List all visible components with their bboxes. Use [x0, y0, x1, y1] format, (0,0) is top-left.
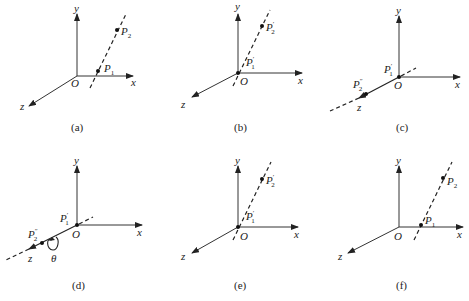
p1-prime-label: P′1	[245, 209, 255, 225]
origin-label: O	[240, 75, 248, 87]
z-axis	[192, 73, 238, 97]
p1-prime-label: P′1	[383, 62, 393, 78]
caption-a: (a)	[71, 121, 84, 134]
p2-double-prime-label: P″2	[352, 77, 363, 93]
panel-b: y x z O P′1 P′2 (b)	[180, 0, 303, 134]
point-p1-prime	[236, 225, 240, 229]
point-p2-prime	[260, 24, 264, 28]
panel-a: y x z O P1 P2 (a)	[19, 2, 136, 134]
rotation-axis-line-lower	[330, 98, 359, 111]
z-axis	[29, 76, 77, 106]
theta-label: θ	[51, 252, 57, 264]
p1-label: P1	[103, 62, 115, 77]
point-p2-prime	[260, 177, 264, 181]
origin-label: O	[394, 230, 402, 242]
caption-e: (e)	[234, 279, 247, 292]
z-label: z	[180, 98, 186, 110]
caption-d: (d)	[72, 279, 85, 292]
z-label: z	[356, 101, 362, 113]
origin-label: O	[240, 230, 248, 242]
p2-prime-label: P′2	[265, 173, 275, 189]
x-label: x	[297, 74, 303, 86]
p1-prime-label: P′1	[245, 55, 255, 71]
z-axis	[192, 227, 238, 253]
point-p1-prime	[75, 223, 79, 227]
panel-c: y x z O P′1 P″2 (c)	[330, 4, 460, 134]
x-label: x	[454, 78, 460, 90]
caption-b: (b)	[234, 121, 247, 134]
y-label: y	[234, 154, 240, 166]
point-p2-double-prime	[364, 92, 368, 96]
x-label: x	[293, 228, 299, 240]
point-p2-double-prime	[40, 241, 44, 245]
origin-label: O	[71, 77, 79, 89]
panel-d: y x z O θ P′1 P″2 (d)	[6, 154, 142, 292]
point-p2	[441, 176, 445, 180]
origin-label: O	[72, 228, 80, 240]
x-label: x	[136, 226, 142, 238]
y-label: y	[395, 4, 401, 16]
y-label: y	[73, 154, 79, 166]
rotation-diagram: y x z O P1 P2 (a) y x z O P′1 P′2 (b) y …	[0, 0, 469, 301]
panel-f: y x z O P1 P2 (f)	[337, 154, 463, 292]
z-label: z	[337, 250, 343, 262]
panel-e: y x z O P′1 P′2 (e)	[180, 154, 299, 292]
z-label: z	[27, 252, 33, 264]
caption-f: (f)	[396, 279, 407, 292]
point-p1	[96, 69, 100, 73]
caption-c: (c)	[396, 121, 409, 134]
z-label: z	[180, 250, 186, 262]
p2-prime-label: P′2	[265, 20, 275, 36]
y-label: y	[234, 0, 240, 12]
z-label: z	[19, 100, 25, 112]
x-label: x	[456, 228, 462, 240]
rotation-axis-line-upper	[401, 68, 416, 76]
y-label: y	[73, 2, 79, 14]
origin-label: O	[394, 79, 402, 91]
z-axis	[348, 227, 399, 253]
x-label: x	[130, 76, 136, 88]
p1-prime-label: P′1	[59, 211, 69, 227]
p2-double-prime-label: P″2	[27, 227, 38, 243]
rotation-axis-line-upper	[79, 217, 93, 224]
point-p1	[419, 223, 423, 227]
point-p2	[115, 28, 119, 32]
rotation-axis-line-lower	[6, 249, 29, 260]
y-label: y	[395, 154, 401, 166]
p2-label: P2	[120, 25, 132, 40]
p2-label: P2	[446, 175, 458, 190]
